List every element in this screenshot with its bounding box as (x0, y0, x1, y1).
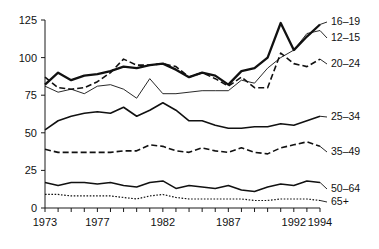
line-chart: 0255075100125 197319771982198719921994 1… (0, 0, 379, 249)
series-line-35-49 (45, 142, 320, 154)
leader-line-16-19 (320, 22, 327, 25)
series-label-20-24: 20–24 (331, 57, 360, 69)
series-lines (45, 23, 320, 200)
x-tick-label: 1992 (282, 216, 306, 228)
leader-line-12-15 (320, 31, 327, 38)
series-label-25-34: 25–34 (331, 110, 360, 122)
series-line-65+ (45, 194, 320, 200)
series-label-35-49: 35–49 (331, 145, 360, 157)
series-label-50-64: 50–64 (331, 182, 360, 194)
series-label-65+: 65+ (331, 195, 349, 207)
x-tick-label: 1982 (151, 216, 175, 228)
series-line-50-64 (45, 181, 320, 192)
x-axis: 197319771982198719921994 (33, 208, 332, 228)
series-line-12-15 (45, 31, 320, 99)
series-line-25-34 (45, 103, 320, 130)
y-tick-label: 50 (25, 127, 37, 139)
x-tick-label: 1973 (33, 216, 57, 228)
x-tick-label: 1987 (216, 216, 240, 228)
leader-line-20-24 (320, 59, 327, 64)
x-tick-label: 1994 (308, 216, 332, 228)
series-label-16-19: 16–19 (331, 15, 360, 27)
chart-canvas: 0255075100125 197319771982198719921994 1… (0, 0, 379, 249)
series-line-20-24 (45, 53, 320, 89)
y-tick-label: 125 (19, 14, 37, 26)
x-tick-label: 1977 (85, 216, 109, 228)
y-axis: 0255075100125 (19, 14, 45, 214)
leader-line-25-34 (320, 116, 327, 117)
series-label-12-15: 12–15 (331, 31, 360, 43)
y-tick-label: 0 (31, 202, 37, 214)
series-labels: 16–1912–1520–2425–3435–4950–6465+ (320, 15, 360, 207)
leader-line-50-64 (320, 182, 327, 189)
y-tick-label: 75 (25, 89, 37, 101)
leader-line-35-49 (320, 146, 327, 152)
leader-line-65+ (320, 200, 327, 202)
y-tick-label: 25 (25, 164, 37, 176)
series-line-16-19 (45, 23, 320, 85)
y-tick-label: 100 (19, 52, 37, 64)
